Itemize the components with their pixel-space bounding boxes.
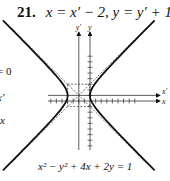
x-axis-label: x	[161, 97, 166, 106]
x-prime-axis-label: x′	[161, 87, 168, 96]
hyperbola-plot: y′ y x′ x	[0, 0, 170, 181]
y-axis-label: y	[87, 23, 92, 32]
y-prime-axis-label: y′	[75, 23, 82, 32]
equation-caption: x² − y² + 4x + 2y = 1	[38, 160, 132, 172]
